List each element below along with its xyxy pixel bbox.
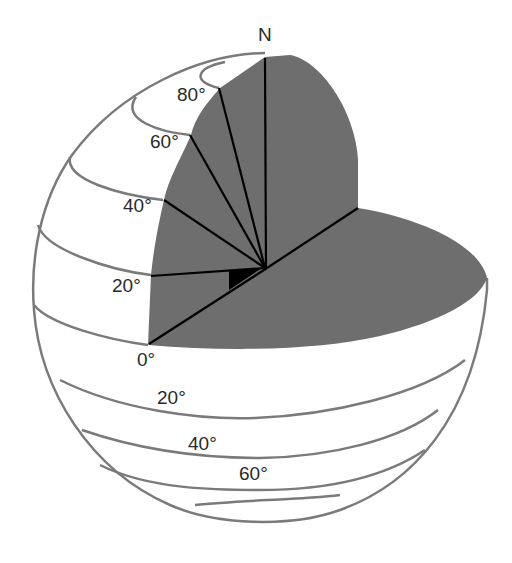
latitude-label-40: 40° (123, 195, 152, 216)
latitude-label-0: 0° (137, 349, 155, 370)
radius-line-north (265, 58, 266, 268)
latitude-label-s40: 40° (188, 433, 217, 454)
latitude-label-80: 80° (177, 84, 206, 105)
latitude-label-s60: 60° (239, 463, 268, 484)
latitude-label-60: 60° (150, 131, 179, 152)
latitude-globe-diagram: N 80° 60° 40° 20° 0° 20° 40° 60° (0, 0, 512, 563)
latitude-label-20: 20° (112, 275, 141, 296)
latitude-label-s20: 20° (157, 387, 186, 408)
north-pole-label: N (258, 24, 272, 45)
